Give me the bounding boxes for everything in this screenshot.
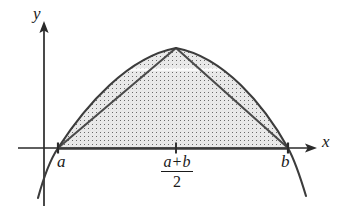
- midpoint-label: a+b 2: [146, 153, 208, 191]
- plus-operator: +: [171, 153, 182, 170]
- x-axis-label: x: [322, 132, 330, 152]
- parabola-figure: y x a b a+b 2: [0, 0, 341, 215]
- left-root-label: a: [57, 152, 66, 172]
- midpoint-fraction: a+b 2: [161, 153, 192, 191]
- numerator-term-b: b: [183, 153, 191, 170]
- y-axis-label: y: [33, 4, 41, 24]
- fraction-denominator: 2: [161, 172, 192, 190]
- right-root-label: b: [281, 152, 290, 172]
- fraction-numerator: a+b: [161, 153, 192, 172]
